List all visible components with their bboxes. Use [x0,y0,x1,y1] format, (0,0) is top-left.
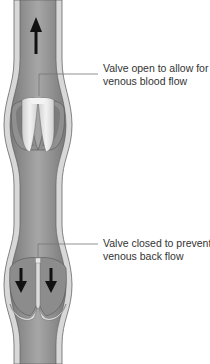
closed-valve-label-line-1: Valve closed to prevent [103,237,210,250]
open-valve-label-line-2: venous blood flow [103,75,208,88]
open-valve-label-line-1: Valve open to allow for [103,62,208,75]
closed-valve-label: Valve closed to prevent venous back flow [103,237,210,263]
closed-valve-label-line-2: venous back flow [103,250,210,263]
open-valve-label: Valve open to allow for venous blood flo… [103,62,208,88]
vein-diagram [0,0,210,364]
